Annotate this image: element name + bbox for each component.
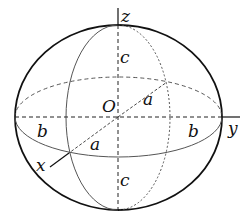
label-a-front: a	[90, 134, 100, 154]
label-b-right: b	[188, 121, 199, 141]
label-y: y	[227, 118, 238, 138]
x-axis-outside	[50, 153, 69, 167]
label-c-lower: c	[120, 170, 130, 190]
ellipsoid-diagram: z c O a b b y a x c	[0, 0, 249, 220]
label-x: x	[36, 155, 46, 175]
label-a-back: a	[143, 89, 153, 109]
label-b-left: b	[37, 121, 48, 141]
label-c-upper: c	[120, 47, 130, 67]
label-origin: O	[102, 96, 116, 116]
label-z: z	[120, 6, 131, 26]
